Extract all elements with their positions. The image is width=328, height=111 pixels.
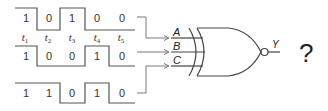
- input-label-c: C: [173, 54, 181, 66]
- bit-c-3: 0: [69, 87, 75, 99]
- bit-b-5: 0: [119, 50, 125, 62]
- input-label-b: B: [173, 40, 180, 52]
- waveform-a: 1 0 1 0 0: [15, 8, 135, 30]
- bit-b-1: 1: [23, 50, 29, 62]
- bit-a-1: 1: [23, 12, 29, 24]
- bit-c-5: 0: [119, 87, 125, 99]
- time-label-t1: t1: [22, 31, 29, 45]
- bit-c-2: 1: [46, 87, 52, 99]
- bit-a-4: 0: [94, 12, 100, 24]
- gate-input-lines: A B C: [171, 26, 205, 66]
- bit-b-4: 1: [94, 50, 100, 62]
- time-label-t2: t2: [45, 31, 52, 45]
- bit-b-2: 0: [46, 50, 52, 62]
- connectors: [137, 17, 169, 93]
- time-label-t3: t3: [69, 31, 76, 45]
- question-mark: ?: [299, 38, 313, 68]
- bit-a-2: 0: [46, 12, 52, 24]
- bit-c-4: 1: [94, 87, 100, 99]
- bit-a-5: 0: [119, 12, 125, 24]
- time-labels: t1 t2 t3 t4 t5: [22, 31, 125, 45]
- time-label-t4: t4: [94, 31, 101, 45]
- output-label-y: Y: [272, 39, 280, 50]
- connector-a: [137, 17, 168, 38]
- bit-b-3: 0: [69, 50, 75, 62]
- connector-c: [137, 66, 168, 93]
- inversion-bubble-icon: [261, 49, 268, 56]
- waveform-b: 1 0 0 1 0: [15, 46, 135, 66]
- logic-diagram: 1 0 1 0 0 t1 t2 t3 t4 t5 1 0 0 1 0 1 1 0…: [0, 0, 328, 111]
- time-label-t5: t5: [118, 31, 125, 45]
- bit-a-3: 1: [69, 12, 75, 24]
- bit-c-1: 1: [23, 87, 29, 99]
- waveform-c: 1 1 0 1 0: [15, 83, 135, 103]
- input-label-a: A: [172, 26, 180, 38]
